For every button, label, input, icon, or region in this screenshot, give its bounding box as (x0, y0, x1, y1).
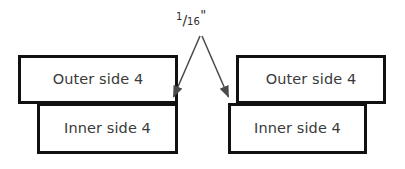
box-inner-side-right: Inner side 4 (228, 103, 367, 154)
box-inner-side-left: Inner side 4 (37, 103, 178, 154)
box-outer-side-right: Outer side 4 (236, 55, 386, 104)
box-label: Outer side 4 (266, 72, 357, 87)
dimension-annotation-label: 1/16" (176, 8, 206, 27)
box-label: Inner side 4 (64, 121, 151, 136)
diagram-canvas: 1/16" Outer side 4 Inner side 4 Outer si… (0, 0, 405, 169)
box-label: Outer side 4 (53, 72, 144, 87)
inch-mark-icon: " (200, 7, 206, 22)
fraction-denominator: 16 (187, 16, 200, 27)
box-outer-side-left: Outer side 4 (18, 55, 178, 104)
arrow-right (202, 36, 229, 97)
fraction-one-sixteenth: 1/16 (176, 12, 200, 27)
box-label: Inner side 4 (254, 121, 341, 136)
